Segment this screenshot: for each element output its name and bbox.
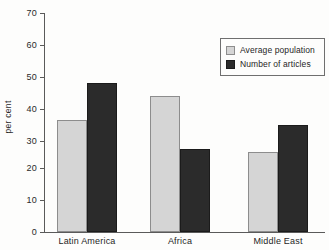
- y-tick-mark-60: [40, 45, 44, 46]
- legend-label-number-of-articles: Number of articles: [240, 60, 311, 69]
- bar-chart-plot-area: per cent 70 60 50 40 30 20 10 0 Latin Am…: [0, 0, 329, 250]
- y-tick-label-70: 70: [9, 9, 37, 18]
- y-tick-label-30: 30: [9, 137, 37, 146]
- y-tick-label-60: 60: [9, 41, 37, 50]
- y-axis-line: [44, 13, 45, 233]
- bar-latin-america-average-population: [57, 120, 87, 232]
- bar-latin-america-number-of-articles: [87, 83, 117, 232]
- x-category-label-latin-america: Latin America: [42, 236, 132, 246]
- y-tick-label-10: 10: [9, 196, 37, 205]
- x-category-label-africa: Africa: [135, 236, 225, 246]
- y-tick-mark-50: [40, 77, 44, 78]
- y-tick-label-20: 20: [9, 164, 37, 173]
- bar-africa-number-of-articles: [180, 149, 210, 232]
- y-tick-label-40: 40: [9, 105, 37, 114]
- chart-figure: per cent 70 60 50 40 30 20 10 0 Latin Am…: [0, 0, 329, 250]
- x-category-label-middle-east: Middle East: [233, 236, 323, 246]
- chart-legend: Average population Number of articles: [220, 38, 325, 76]
- legend-item-average-population: Average population: [226, 43, 319, 57]
- bar-middle-east-number-of-articles: [278, 125, 308, 232]
- legend-swatch-number-of-articles: [226, 60, 235, 69]
- y-tick-mark-10: [40, 200, 44, 201]
- x-axis-line: [44, 232, 325, 233]
- y-tick-mark-20: [40, 168, 44, 169]
- bar-africa-average-population: [150, 96, 180, 232]
- bar-middle-east-average-population: [248, 152, 278, 232]
- y-tick-mark-0: [40, 232, 44, 233]
- y-axis-title: per cent: [3, 91, 13, 143]
- y-tick-label-50: 50: [9, 73, 37, 82]
- y-tick-mark-40: [40, 109, 44, 110]
- legend-swatch-average-population: [226, 46, 235, 55]
- y-tick-mark-70: [40, 13, 44, 14]
- legend-item-number-of-articles: Number of articles: [226, 57, 319, 71]
- legend-label-average-population: Average population: [240, 46, 315, 55]
- y-tick-label-0: 0: [9, 228, 37, 237]
- y-tick-mark-30: [40, 141, 44, 142]
